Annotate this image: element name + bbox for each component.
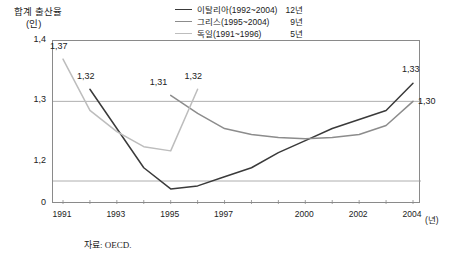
y-tick-label: 1,2 [16, 155, 46, 165]
series-line [90, 83, 413, 189]
x-tick-label: 1995 [150, 209, 190, 219]
x-tick-label: 2000 [284, 209, 324, 219]
legend-item[interactable]: 그리스(1995~2004)9년 [175, 15, 303, 27]
legend-label: 그리스(1995~2004) [197, 15, 269, 27]
x-tick-label: 1991 [42, 209, 82, 219]
y-axis-title: 합계 출산율 [14, 6, 62, 18]
chart-legend: 이탈리아(1992~2004)12년그리스(1995~2004)9년독일(199… [175, 3, 303, 39]
y-axis-unit: (인) [26, 18, 41, 30]
legend-line-icon [175, 21, 192, 22]
legend-duration: 5년 [282, 27, 303, 39]
legend-line-icon [175, 33, 192, 34]
y-tick-label: 0 [16, 197, 46, 207]
legend-duration: 12년 [277, 3, 302, 15]
plot-area [52, 40, 420, 203]
source-note: 자료: OECD. [84, 238, 132, 251]
y-tick-label: 1,4 [16, 34, 46, 44]
legend-label: 이탈리아(1992~2004) [197, 3, 277, 15]
legend-label: 독일(1991~1996) [197, 27, 261, 39]
data-value-label: 1,32 [77, 71, 95, 81]
x-tick-label: 1993 [96, 209, 136, 219]
data-value-label: 1,30 [418, 96, 436, 106]
data-value-label: 1,32 [185, 71, 203, 81]
x-tick-label: 2004 [392, 209, 432, 219]
x-tick-label: 1997 [204, 209, 244, 219]
legend-item[interactable]: 독일(1991~1996)5년 [175, 27, 303, 39]
data-value-label: 1,31 [150, 77, 168, 87]
legend-line-icon [175, 9, 192, 10]
data-value-label: 1,37 [50, 41, 68, 51]
legend-item[interactable]: 이탈리아(1992~2004)12년 [175, 3, 303, 15]
x-tick-label: 2002 [338, 209, 378, 219]
legend-duration: 9년 [282, 15, 303, 27]
y-tick-label: 1,3 [16, 94, 46, 104]
series-line [171, 95, 413, 138]
chart-svg [53, 41, 421, 204]
data-value-label: 1,33 [402, 64, 420, 74]
chart-page: 합계 출산율 (인) (년) 1,41,31,20 19911993199519… [0, 0, 457, 266]
